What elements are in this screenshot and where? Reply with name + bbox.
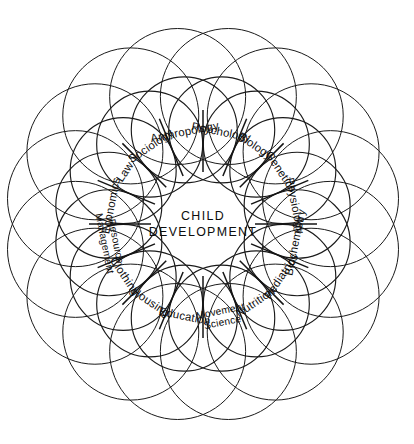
center-label-line-1: CHILD — [181, 209, 225, 223]
center-label-line-2: DEVELOPMENT — [149, 225, 258, 239]
child-development-rosette-diagram: PsychologyBiologyGeneticsPhysiologyBioch… — [0, 0, 414, 444]
diagram-canvas: PsychologyBiologyGeneticsPhysiologyBioch… — [0, 0, 414, 444]
